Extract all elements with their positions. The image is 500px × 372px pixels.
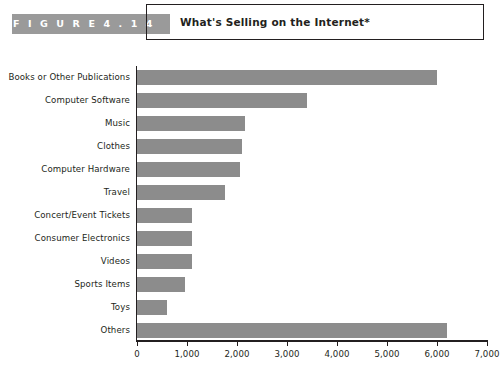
x-tick-label: 2,000 — [224, 349, 249, 359]
x-tick-label: 6,000 — [424, 349, 449, 359]
bar-category-label: Toys — [111, 296, 130, 319]
bar — [137, 93, 307, 108]
bar-row: Toys — [0, 296, 491, 319]
bar-row: Consumer Electronics — [0, 227, 491, 250]
bar — [137, 70, 437, 85]
bar — [137, 254, 192, 269]
bar — [137, 231, 192, 246]
x-tick-label: 3,000 — [274, 349, 299, 359]
bar-category-label: Travel — [104, 181, 130, 204]
bar — [137, 185, 225, 200]
bar-row: Travel — [0, 181, 491, 204]
x-tick — [437, 340, 438, 346]
figure-header: F I G U R E 4 . 1 4 What's Selling on th… — [0, 0, 491, 46]
x-tick — [187, 340, 188, 346]
bar-category-label: Music — [105, 112, 130, 135]
x-tick-label: 4,000 — [324, 349, 349, 359]
bar — [137, 323, 447, 338]
bar — [137, 139, 242, 154]
bar — [137, 162, 240, 177]
bar-row: Music — [0, 112, 491, 135]
bar-row: Concert/Event Tickets — [0, 204, 491, 227]
bar-category-label: Sports Items — [74, 273, 130, 296]
bar-row: Sports Items — [0, 273, 491, 296]
bar-row: Videos — [0, 250, 491, 273]
bar — [137, 116, 245, 131]
bar-row: Books or Other Publications — [0, 66, 491, 89]
bar-row: Computer Hardware — [0, 158, 491, 181]
bar-row: Computer Software — [0, 89, 491, 112]
bar-category-label: Computer Software — [45, 89, 130, 112]
x-tick — [287, 340, 288, 346]
bar-row: Others — [0, 319, 491, 342]
bar — [137, 300, 167, 315]
bar — [137, 277, 185, 292]
x-tick-label: 0 — [134, 349, 140, 359]
x-tick-label: 1,000 — [174, 349, 199, 359]
figure-title: What's Selling on the Internet* — [180, 4, 370, 40]
bar-chart: Books or Other PublicationsComputer Soft… — [0, 46, 491, 372]
bar-row: Clothes — [0, 135, 491, 158]
x-tick — [237, 340, 238, 346]
x-tick — [487, 340, 488, 346]
bar-category-label: Books or Other Publications — [8, 66, 130, 89]
figure-number-label: F I G U R E 4 . 1 4 — [12, 14, 156, 34]
bar-category-label: Concert/Event Tickets — [34, 204, 130, 227]
bar-category-label: Computer Hardware — [41, 158, 130, 181]
bar-category-label: Others — [101, 319, 130, 342]
x-tick — [337, 340, 338, 346]
bar-category-label: Clothes — [97, 135, 130, 158]
x-tick-label: 5,000 — [374, 349, 399, 359]
x-tick — [137, 340, 138, 346]
bar — [137, 208, 192, 223]
x-tick — [387, 340, 388, 346]
bar-category-label: Consumer Electronics — [35, 227, 130, 250]
x-tick-label: 7,000 — [474, 349, 499, 359]
bar-category-label: Videos — [101, 250, 130, 273]
